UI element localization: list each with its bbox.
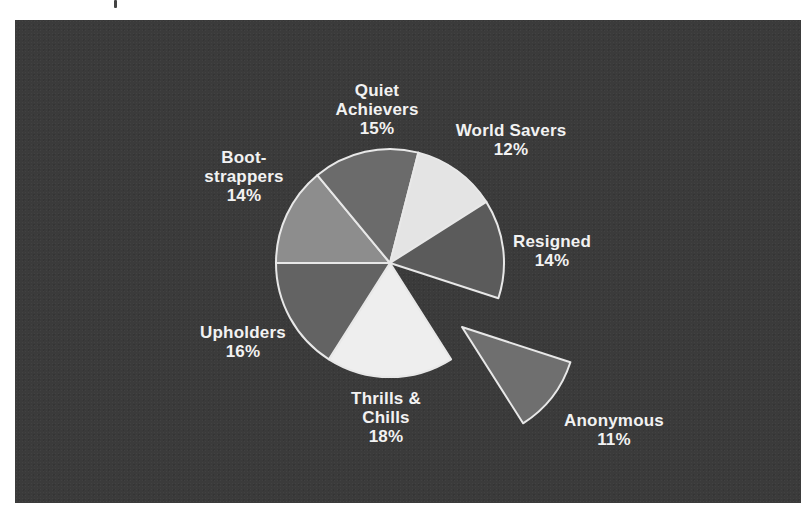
slice-label-percent: 18% xyxy=(351,427,421,446)
slice-label-percent: 15% xyxy=(335,119,418,138)
slice-label-name: Resigned xyxy=(513,232,591,251)
slice-label-percent: 14% xyxy=(513,251,591,270)
slice-label-name: Quiet Achievers xyxy=(335,81,418,119)
slice-label-name: Upholders xyxy=(200,323,286,342)
slice-label-percent: 12% xyxy=(456,140,567,159)
slice-label-resigned: Resigned14% xyxy=(513,232,591,270)
slice-label-name: Thrills & Chills xyxy=(351,389,421,427)
slice-label-percent: 14% xyxy=(204,186,283,205)
slice-label-world-savers: World Savers12% xyxy=(456,121,567,159)
slice-label-name: World Savers xyxy=(456,121,567,140)
slice-label-upholders: Upholders16% xyxy=(200,323,286,361)
slice-label-bootstrappers: Boot- strappers14% xyxy=(204,148,283,205)
pie-slice-anonymous xyxy=(462,327,570,423)
slice-label-percent: 16% xyxy=(200,342,286,361)
slice-label-anonymous: Anonymous11% xyxy=(564,411,664,449)
slice-label-quiet-achievers: Quiet Achievers15% xyxy=(335,81,418,138)
slice-label-name: Boot- strappers xyxy=(204,148,283,186)
slice-label-percent: 11% xyxy=(564,430,664,449)
slice-label-name: Anonymous xyxy=(564,411,664,430)
slice-label-thrills-chills: Thrills & Chills18% xyxy=(351,389,421,446)
